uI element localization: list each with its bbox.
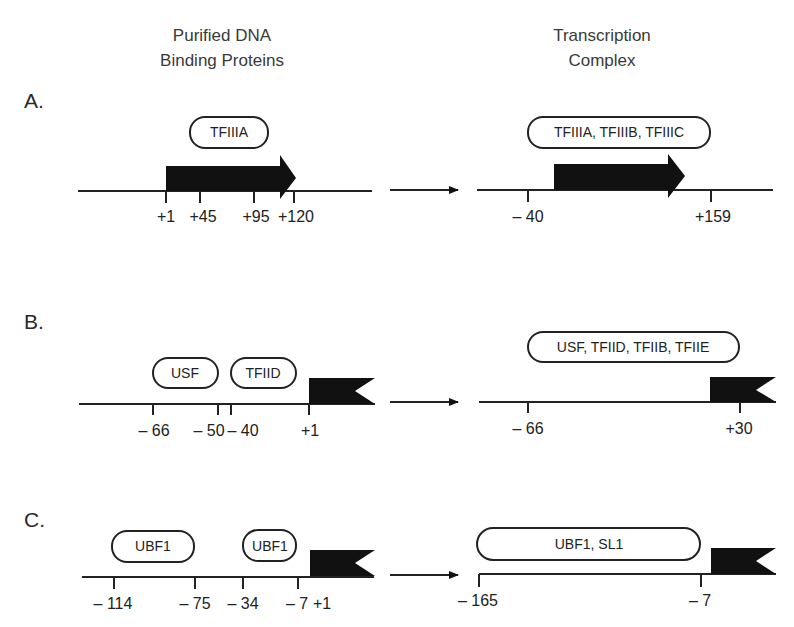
gene-arrow-icon <box>166 155 296 199</box>
complex-label: TFIIIA, TFIIIB, TFIIIC <box>554 124 684 140</box>
panel-c-left-dna: UBF1 UBF1 – 114 – 75 – 34 – 7 +1 <box>82 530 375 612</box>
position-label: +30 <box>725 420 752 437</box>
panel-c-label: C. <box>24 508 45 531</box>
position-label: – 75 <box>179 595 210 612</box>
position-label: – 66 <box>138 422 169 439</box>
left-column-header: Purified DNA Binding Proteins <box>160 26 284 70</box>
position-label: +159 <box>695 208 731 225</box>
position-label: – 114 <box>94 595 133 612</box>
promoter-flag-icon <box>310 550 375 576</box>
protein-label: TFIID <box>246 365 281 381</box>
panel-b-label: B. <box>24 310 44 333</box>
panel-a: A. TFIIIA +1 +45 +95 +120 TFIIIA, TFIIIB… <box>24 89 773 225</box>
position-label: +95 <box>242 208 269 225</box>
promoter-flag-icon <box>309 378 375 404</box>
left-header-line-1: Purified DNA <box>173 26 272 45</box>
position-label: – 34 <box>227 595 258 612</box>
position-label: +1 <box>157 208 175 225</box>
protein-label: UBF1 <box>135 538 171 554</box>
position-label: +1 <box>301 422 319 439</box>
position-label: – 165 <box>458 592 498 609</box>
gene-arrow-icon <box>554 154 685 198</box>
panel-b: B. USF TFIID – 66 – 50 – 40 +1 USF, TFII… <box>24 310 776 439</box>
transcription-complex-diagram: Purified DNA Binding Proteins Transcript… <box>0 0 794 627</box>
panel-a-label: A. <box>24 89 44 112</box>
protein-label: UBF1 <box>252 538 288 554</box>
position-label: – 40 <box>227 422 258 439</box>
right-header-line-2: Complex <box>568 51 636 70</box>
complex-label: UBF1, SL1 <box>555 536 624 552</box>
panel-b-left-dna: USF TFIID – 66 – 50 – 40 +1 <box>79 358 375 439</box>
complex-label: USF, TFIID, TFIIB, TFIIE <box>557 339 709 355</box>
position-label: – 66 <box>512 420 543 437</box>
panel-c-right-dna: UBF1, SL1 – 165 – 7 <box>458 528 776 609</box>
position-label: – 40 <box>512 208 543 225</box>
position-label: – 7 <box>286 595 308 612</box>
panel-c: C. UBF1 UBF1 – 114 – 75 – 34 – 7 +1 UBF1… <box>24 508 776 612</box>
protein-label: USF <box>171 365 199 381</box>
position-label: +1 <box>313 595 331 612</box>
position-label: – 50 <box>193 422 224 439</box>
position-label: +120 <box>278 208 314 225</box>
right-header-line-1: Transcription <box>553 26 651 45</box>
left-header-line-2: Binding Proteins <box>160 51 284 70</box>
position-label: – 7 <box>689 592 711 609</box>
panel-a-right-dna: TFIIIA, TFIIIB, TFIIIC – 40 +159 <box>477 117 773 225</box>
position-label: +45 <box>189 208 216 225</box>
panel-b-right-dna: USF, TFIID, TFIIB, TFIIE – 66 +30 <box>479 332 776 437</box>
protein-label: TFIIIA <box>210 124 249 140</box>
promoter-flag-icon <box>711 548 776 574</box>
panel-a-left-dna: TFIIIA +1 +45 +95 +120 <box>78 117 372 225</box>
right-column-header: Transcription Complex <box>553 26 651 70</box>
promoter-flag-icon <box>710 377 776 402</box>
